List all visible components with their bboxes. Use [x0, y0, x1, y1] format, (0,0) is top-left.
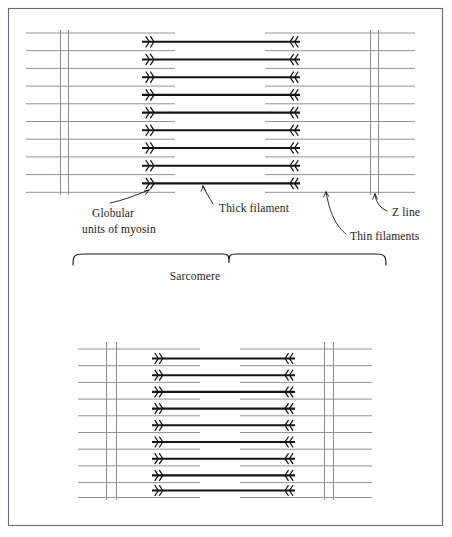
label-globular-line1: Globular	[92, 207, 134, 219]
figure-canvas: Globular units of myosin Thick filament …	[0, 0, 452, 537]
label-globular-line2: units of myosin	[82, 223, 156, 236]
sarcomere-figure: Globular units of myosin Thick filament …	[0, 0, 452, 537]
label-z-line: Z line	[392, 206, 420, 218]
label-thick-filament: Thick filament	[219, 202, 290, 214]
label-sarcomere: Sarcomere	[170, 270, 221, 282]
label-thin-filaments: Thin filaments	[350, 230, 420, 242]
